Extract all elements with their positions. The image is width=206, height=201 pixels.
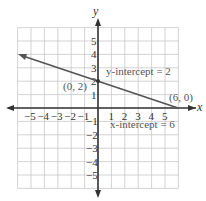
y-tick-label: 5	[91, 35, 97, 47]
x-axis-label: x	[196, 100, 203, 114]
x-tick-label: −4	[37, 110, 49, 122]
y-tick-label: −4	[86, 156, 98, 168]
y-tick-label: −3	[86, 142, 98, 154]
y-intercept-annotation: y-intercept = 2	[106, 65, 171, 77]
x-tick-label: −5	[24, 110, 36, 122]
x-tick-label: −3	[51, 110, 63, 122]
point-label-0-2: (0, 2)	[63, 80, 87, 93]
point-label-6-0: (6, 0)	[169, 91, 193, 104]
y-tick-label: 4	[91, 48, 97, 60]
point-y-intercept	[96, 79, 100, 83]
y-axis-down-arrow-icon	[95, 190, 101, 198]
coordinate-plane: y x −5−4−3−2−112345 54321−1−2−3−4−5 (0, …	[0, 0, 206, 201]
line-arrow-icon	[18, 54, 27, 60]
x-tick-label: −2	[64, 110, 76, 122]
x-intercept-annotation: x-intercept = 6	[110, 118, 175, 130]
x-axis-left-arrow-icon	[6, 105, 14, 111]
y-tick-label: −2	[86, 129, 98, 141]
x-axis-right-arrow-icon	[188, 105, 196, 111]
y-tick-label: 1	[91, 89, 97, 101]
y-axis-label: y	[92, 4, 99, 18]
y-tick-label: −5	[86, 169, 98, 181]
y-tick-label: −1	[86, 115, 98, 127]
y-tick-label: 3	[91, 62, 97, 74]
y-axis-up-arrow-icon	[95, 18, 101, 26]
